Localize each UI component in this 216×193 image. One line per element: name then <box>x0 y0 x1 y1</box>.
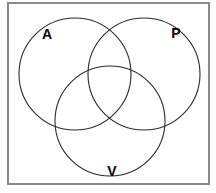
set-label-p: P <box>171 25 180 41</box>
set-label-v: V <box>107 163 117 179</box>
venn-diagram-figure: A P V <box>0 0 216 193</box>
venn-diagram-canvas: A P V <box>0 0 216 193</box>
set-label-a: A <box>42 26 52 42</box>
